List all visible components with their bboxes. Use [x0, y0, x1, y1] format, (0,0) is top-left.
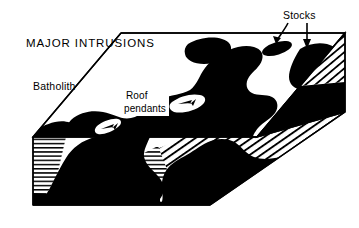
block-body [33, 33, 345, 205]
roof-pendants-callout: Roof pendants [122, 89, 169, 116]
figure-title: MAJOR INTRUSIONS [26, 37, 155, 49]
stocks-label: Stocks [283, 9, 316, 21]
batholith-label: Batholith [33, 80, 76, 92]
major-intrusions-block-diagram: Stocks MAJOR INTRUSIONS Batholith Roof p… [0, 0, 359, 228]
figure-root: Stocks MAJOR INTRUSIONS Batholith Roof p… [0, 0, 359, 228]
roof-pendants-label-line2: pendants [124, 103, 166, 114]
roof-pendants-label-line1: Roof [126, 90, 148, 101]
